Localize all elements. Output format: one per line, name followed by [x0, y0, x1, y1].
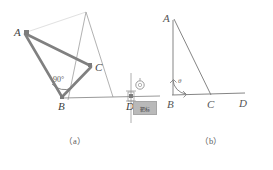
diagram-canvas	[0, 0, 273, 170]
angle-label-theta: θ	[178, 78, 181, 85]
sight-ring-inner-icon	[138, 83, 141, 86]
point-marker-c	[88, 63, 92, 67]
point-label-b-d: D	[239, 98, 247, 109]
point-label-b: B	[58, 101, 65, 112]
target-plate: 靶标	[133, 101, 157, 115]
line-ground-bd	[62, 96, 160, 98]
target-plate-label: 靶标	[134, 105, 156, 112]
caption-figure-a: （a）	[64, 137, 86, 146]
point-label-b-c: C	[207, 99, 214, 110]
point-label-c: C	[95, 62, 102, 73]
angle-label-90: 90°	[53, 76, 64, 84]
line-a-to-sight-top	[24, 12, 86, 33]
point-label-a: A	[14, 27, 21, 38]
geometry-figure-root: A B C D 90° 靶标 （a） A B C D θ （b）	[0, 0, 273, 170]
sight-ring-icon	[136, 81, 144, 89]
point-marker-b	[60, 95, 64, 99]
point-label-b-a: A	[163, 13, 170, 24]
point-marker-d	[129, 94, 133, 98]
segment-bc	[62, 67, 91, 97]
figure-b-geometry	[170, 19, 245, 98]
point-marker-a	[24, 30, 29, 35]
line-sight-top-to-ground	[86, 12, 113, 97]
caption-figure-b: （b）	[200, 137, 222, 146]
point-label-b-b: B	[167, 99, 174, 110]
